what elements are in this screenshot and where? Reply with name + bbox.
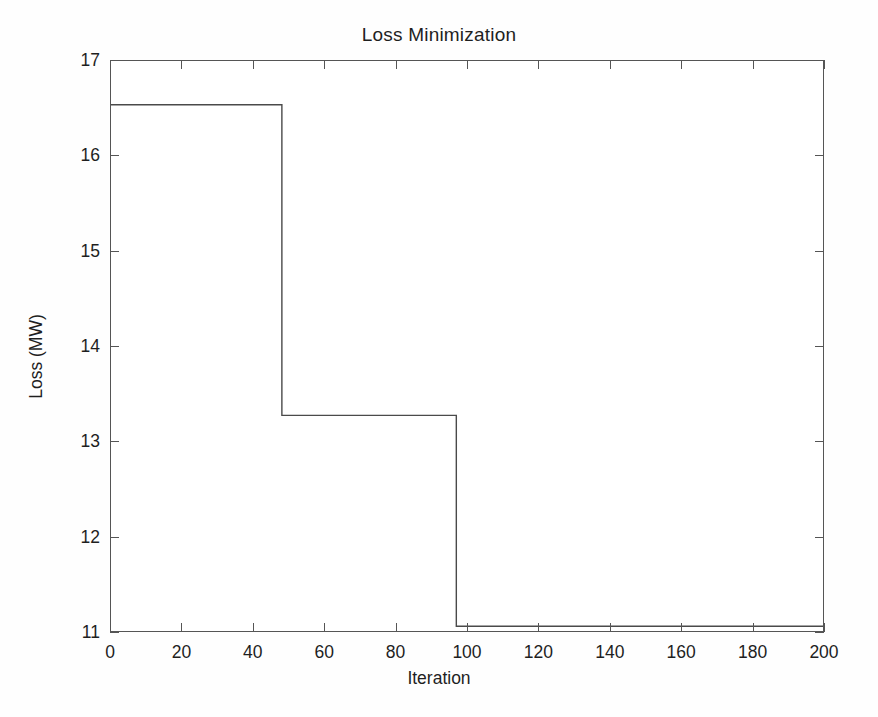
y-tick-mark-right bbox=[815, 632, 824, 633]
x-tick-mark-top bbox=[538, 60, 539, 69]
x-tick-mark-top bbox=[324, 60, 325, 69]
y-tick-mark bbox=[110, 155, 119, 156]
x-tick-label: 200 bbox=[789, 642, 859, 663]
y-tick-mark-right bbox=[815, 155, 824, 156]
y-tick-label: 17 bbox=[40, 50, 100, 71]
y-tick-mark-right bbox=[815, 537, 824, 538]
x-tick-mark-top bbox=[253, 60, 254, 69]
y-tick-mark-right bbox=[815, 346, 824, 347]
y-tick-mark bbox=[110, 632, 119, 633]
x-tick-mark bbox=[110, 623, 111, 632]
figure-canvas: Loss Minimization 11121314151617 0204060… bbox=[0, 0, 878, 717]
x-tick-label: 60 bbox=[289, 642, 359, 663]
y-axis-title: Loss (MW) bbox=[26, 257, 47, 457]
x-tick-label: 0 bbox=[75, 642, 145, 663]
x-tick-label: 180 bbox=[718, 642, 788, 663]
y-tick-label: 15 bbox=[40, 240, 100, 261]
y-tick-mark bbox=[110, 346, 119, 347]
x-tick-label: 120 bbox=[503, 642, 573, 663]
y-tick-mark bbox=[110, 441, 119, 442]
x-tick-mark bbox=[253, 623, 254, 632]
x-tick-label: 160 bbox=[646, 642, 716, 663]
y-tick-label: 13 bbox=[40, 431, 100, 452]
x-tick-mark bbox=[824, 623, 825, 632]
y-tick-mark bbox=[110, 60, 119, 61]
loss-series-line bbox=[111, 61, 823, 631]
x-tick-label: 80 bbox=[361, 642, 431, 663]
series-polyline bbox=[111, 105, 823, 627]
plot-area bbox=[110, 60, 824, 632]
y-tick-label: 12 bbox=[40, 526, 100, 547]
y-tick-label: 14 bbox=[40, 336, 100, 357]
y-tick-mark-right bbox=[815, 441, 824, 442]
x-tick-mark bbox=[538, 623, 539, 632]
x-tick-mark-top bbox=[110, 60, 111, 69]
x-tick-mark bbox=[467, 623, 468, 632]
x-tick-label: 100 bbox=[432, 642, 502, 663]
x-tick-mark-top bbox=[396, 60, 397, 69]
y-tick-mark bbox=[110, 251, 119, 252]
x-tick-mark bbox=[324, 623, 325, 632]
x-tick-mark-top bbox=[753, 60, 754, 69]
x-axis-title: Iteration bbox=[0, 668, 878, 689]
x-tick-label: 140 bbox=[575, 642, 645, 663]
y-tick-mark bbox=[110, 537, 119, 538]
chart-title: Loss Minimization bbox=[0, 24, 878, 46]
x-tick-mark bbox=[181, 623, 182, 632]
x-tick-label: 40 bbox=[218, 642, 288, 663]
x-tick-mark-top bbox=[824, 60, 825, 69]
y-tick-mark-right bbox=[815, 251, 824, 252]
x-tick-label: 20 bbox=[146, 642, 216, 663]
x-tick-mark bbox=[753, 623, 754, 632]
y-tick-label: 16 bbox=[40, 145, 100, 166]
x-tick-mark-top bbox=[181, 60, 182, 69]
x-tick-mark bbox=[610, 623, 611, 632]
y-tick-label: 11 bbox=[40, 622, 100, 643]
x-tick-mark bbox=[681, 623, 682, 632]
x-tick-mark-top bbox=[681, 60, 682, 69]
x-tick-mark-top bbox=[610, 60, 611, 69]
x-tick-mark bbox=[396, 623, 397, 632]
y-tick-mark-right bbox=[815, 60, 824, 61]
x-tick-mark-top bbox=[467, 60, 468, 69]
